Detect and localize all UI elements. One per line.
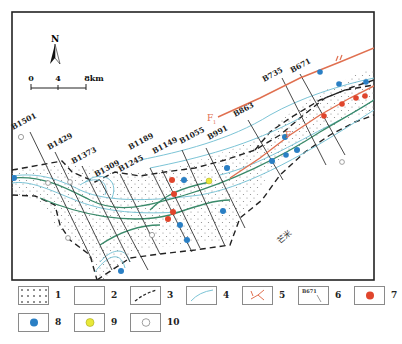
legend-item-7: 7 bbox=[354, 286, 402, 305]
section-line-swatch: B671 bbox=[298, 286, 329, 305]
blue-well-swatch bbox=[18, 313, 49, 332]
legend-row-1: 1 2 3 4 5 B671 bbox=[18, 284, 378, 306]
channel-line-swatch bbox=[186, 286, 217, 305]
legend-item-5: 5 bbox=[242, 286, 292, 305]
blank-fill-swatch bbox=[74, 286, 105, 305]
svg-text:0: 0 bbox=[28, 73, 34, 83]
wells-yellow bbox=[206, 178, 212, 184]
yellow-well-swatch bbox=[74, 313, 105, 332]
legend-item-2: 2 bbox=[74, 286, 124, 305]
legend-item-9: 9 bbox=[74, 313, 124, 332]
legend-item-3: 3 bbox=[130, 286, 180, 305]
dotted-fill-swatch bbox=[18, 286, 49, 305]
svg-text:8km: 8km bbox=[84, 73, 104, 83]
svg-text:1: 1 bbox=[213, 119, 216, 125]
svg-text:N: N bbox=[51, 34, 59, 44]
legend-row-2: 8 9 10 bbox=[18, 311, 378, 333]
legend-item-10: 10 bbox=[130, 313, 180, 332]
legend-item-1: 1 bbox=[18, 286, 68, 305]
legend-item-4: 4 bbox=[186, 286, 236, 305]
open-well-swatch bbox=[130, 313, 161, 332]
legend: 1 2 3 4 5 B671 bbox=[18, 284, 378, 338]
geologic-map: N 0 4 8km B1501 B1429 B1373 B1309 B1245 … bbox=[0, 0, 383, 284]
red-well-swatch bbox=[354, 286, 385, 305]
dashed-boundary-swatch bbox=[130, 286, 161, 305]
svg-text:4: 4 bbox=[55, 73, 61, 83]
fault-symbol-swatch bbox=[242, 286, 273, 305]
svg-text:F: F bbox=[285, 130, 291, 140]
legend-item-6: B671 6 bbox=[298, 286, 348, 305]
legend-item-8: 8 bbox=[18, 313, 68, 332]
